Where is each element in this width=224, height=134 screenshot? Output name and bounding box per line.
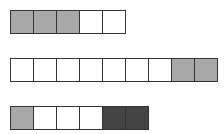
cell-light bbox=[195, 59, 217, 81]
cell-empty bbox=[80, 11, 102, 33]
strip-row-3 bbox=[10, 106, 149, 130]
cell-light bbox=[172, 59, 194, 81]
cell-dark bbox=[126, 107, 148, 129]
cell-empty bbox=[11, 59, 33, 81]
cell-light bbox=[34, 11, 56, 33]
cell-empty bbox=[103, 59, 125, 81]
cell-dark bbox=[103, 107, 125, 129]
cell-empty bbox=[80, 59, 102, 81]
cell-empty bbox=[149, 59, 171, 81]
cell-light bbox=[11, 107, 33, 129]
strip-row-2 bbox=[10, 58, 218, 82]
cell-light bbox=[11, 11, 33, 33]
cell-empty bbox=[80, 107, 102, 129]
cell-empty bbox=[126, 59, 148, 81]
cell-empty bbox=[57, 59, 79, 81]
cell-empty bbox=[103, 11, 125, 33]
cell-light bbox=[57, 11, 79, 33]
cell-empty bbox=[57, 107, 79, 129]
cell-empty bbox=[34, 107, 56, 129]
cell-empty bbox=[34, 59, 56, 81]
strip-row-1 bbox=[10, 10, 126, 34]
